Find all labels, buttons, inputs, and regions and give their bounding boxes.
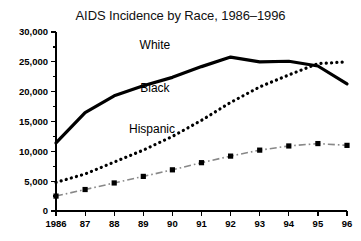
series-marker-hispanic <box>112 180 117 185</box>
y-tick-label: 20,000 <box>19 86 48 97</box>
series-marker-hispanic <box>83 187 88 192</box>
y-tick-label: 5,000 <box>24 176 48 187</box>
x-axis-ticks <box>56 211 347 216</box>
x-tick-label: 96 <box>342 218 353 229</box>
x-axis-labels: 198687888990919293949596 <box>45 218 352 229</box>
series-label-black: Black <box>140 81 170 95</box>
series-line-white <box>56 57 347 143</box>
series-marker-hispanic <box>199 160 204 165</box>
series-label-hispanic: Hispanic <box>129 122 175 136</box>
x-tick-label: 89 <box>138 218 149 229</box>
y-tick-label: 25,000 <box>19 56 48 67</box>
x-tick-label: 95 <box>313 218 324 229</box>
series-marker-hispanic <box>228 154 233 159</box>
series-marker-hispanic <box>344 143 349 148</box>
series-marker-hispanic <box>141 174 146 179</box>
series-marker-hispanic <box>53 193 58 198</box>
series-marker-hispanic <box>286 143 291 148</box>
y-axis-ticks <box>51 32 56 211</box>
y-tick-label: 0 <box>43 205 48 216</box>
series-line-hispanic <box>56 144 347 197</box>
x-tick-label: 88 <box>109 218 120 229</box>
series-label-white: White <box>140 38 171 52</box>
x-tick-label: 91 <box>196 218 207 229</box>
y-axis-labels: 30,00025,00020,00015,00010,0005,0000 <box>19 26 48 216</box>
chart-plot-area: 30,00025,00020,00015,00010,0005,0000 198… <box>0 0 361 241</box>
x-tick-label: 1986 <box>45 218 66 229</box>
x-tick-label: 93 <box>254 218 265 229</box>
series-marker-hispanic <box>315 141 320 146</box>
y-tick-label: 30,000 <box>19 26 48 37</box>
series-lines <box>56 57 347 196</box>
series-marker-hispanic <box>257 148 262 153</box>
x-tick-label: 87 <box>80 218 91 229</box>
chart-container: AIDS Incidence by Race, 1986–1996 30,000… <box>0 0 361 241</box>
y-tick-label: 15,000 <box>19 116 48 127</box>
series-marker-hispanic <box>170 167 175 172</box>
y-tick-label: 10,000 <box>19 146 48 157</box>
x-tick-label: 92 <box>225 218 236 229</box>
x-tick-label: 94 <box>284 218 295 229</box>
x-tick-label: 90 <box>167 218 178 229</box>
